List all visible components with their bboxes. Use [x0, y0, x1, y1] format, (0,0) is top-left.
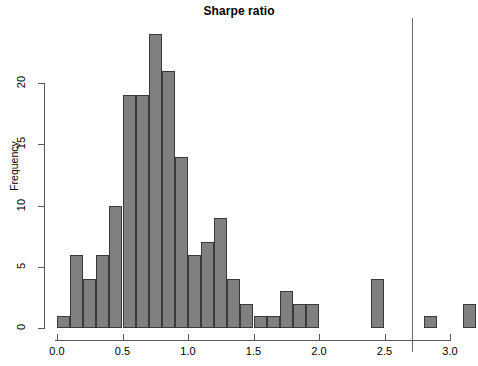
- histogram-bar: [201, 242, 214, 328]
- histogram-bar: [280, 291, 293, 328]
- x-axis-tick-label: 0.0: [37, 345, 77, 357]
- vertical-reference-line: [412, 18, 413, 352]
- y-axis-tick-label: 0: [15, 312, 27, 342]
- histogram-bar: [149, 34, 162, 328]
- y-axis-tick-label: 5: [15, 251, 27, 281]
- x-axis-tick: [450, 334, 451, 341]
- histogram-bar: [123, 95, 136, 328]
- histogram-bar: [293, 304, 306, 329]
- histogram-bar: [70, 255, 83, 329]
- x-axis-tick-label: 2.5: [365, 345, 405, 357]
- histogram-bar: [463, 304, 476, 329]
- y-axis-tick-label: 15: [15, 128, 27, 158]
- x-axis-tick-label: 2.0: [299, 345, 339, 357]
- plot-area: [57, 18, 466, 328]
- x-axis-tick: [57, 334, 58, 341]
- histogram-bar: [240, 304, 253, 329]
- y-axis-tick: [38, 144, 45, 145]
- histogram-bar: [96, 255, 109, 329]
- histogram-bar: [227, 279, 240, 328]
- histogram-bar: [267, 316, 280, 328]
- histogram-bar: [254, 316, 267, 328]
- x-axis-tick: [254, 334, 255, 341]
- histogram-bar: [109, 206, 122, 329]
- y-axis-tick: [38, 328, 45, 329]
- chart-canvas: Sharpe ratio Frequency 0.00.51.01.52.02.…: [0, 0, 478, 366]
- x-axis-tick-label: 0.5: [103, 345, 143, 357]
- x-axis-tick: [319, 334, 320, 341]
- histogram-bar: [83, 279, 96, 328]
- histogram-bar: [162, 71, 175, 328]
- histogram-bar: [57, 316, 70, 328]
- x-axis-tick-label: 1.5: [234, 345, 274, 357]
- x-axis-tick: [385, 334, 386, 341]
- y-axis-tick: [38, 206, 45, 207]
- histogram-bar: [306, 304, 319, 329]
- y-axis-tick-label: 10: [15, 190, 27, 220]
- histogram-bar: [188, 255, 201, 329]
- x-axis-tick: [188, 334, 189, 341]
- histogram-bar: [371, 279, 384, 328]
- chart-title: Sharpe ratio: [0, 4, 478, 18]
- x-axis-tick: [123, 334, 124, 341]
- histogram-bar: [424, 316, 437, 328]
- histogram-bar: [175, 157, 188, 329]
- x-axis-tick-label: 1.0: [168, 345, 208, 357]
- x-axis-tick-label: 3.0: [430, 345, 470, 357]
- y-axis-tick-label: 20: [15, 67, 27, 97]
- histogram-bar: [136, 95, 149, 328]
- y-axis-tick: [38, 83, 45, 84]
- y-axis-tick: [38, 267, 45, 268]
- histogram-bar: [214, 218, 227, 328]
